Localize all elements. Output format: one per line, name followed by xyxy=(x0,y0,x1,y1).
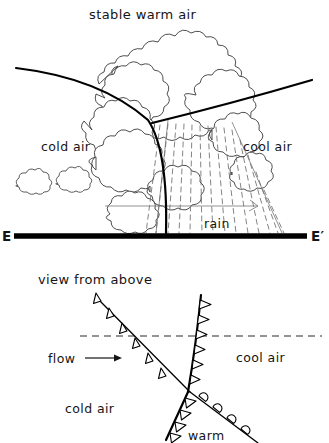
occluded-front-line xyxy=(94,293,191,392)
flow-label: flow xyxy=(48,351,75,366)
lower-cool-air-label: cool air xyxy=(236,350,286,365)
cold-front-line xyxy=(188,295,211,392)
endpoint-e-prime-label: E′ xyxy=(311,228,325,244)
rain-label: rain xyxy=(204,216,230,231)
cumuliform-cloud-mass xyxy=(81,30,273,233)
occluded-front-figure: stable warm air cold air cool air rain E… xyxy=(0,0,329,443)
flow-arrow-icon xyxy=(85,355,122,362)
warm-label: warm xyxy=(188,428,225,443)
lower-cold-air-label: cold air xyxy=(65,401,115,416)
upper-cool-air-label: cool air xyxy=(243,139,293,154)
upper-cold-air-label: cold air xyxy=(41,139,91,154)
fair-weather-cumulus-group xyxy=(16,166,92,194)
endpoint-e-label: E xyxy=(2,228,12,244)
upper-panel-title: stable warm air xyxy=(89,7,197,22)
lower-panel-title: view from above xyxy=(38,272,152,287)
